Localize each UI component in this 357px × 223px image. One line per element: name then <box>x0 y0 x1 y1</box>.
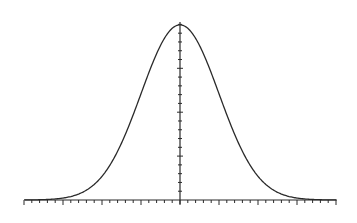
plot-area <box>0 0 357 223</box>
y-axis <box>177 22 183 204</box>
normal-distribution-chart <box>0 0 357 223</box>
